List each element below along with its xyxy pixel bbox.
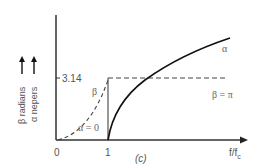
alpha-curve-label: α [222, 43, 228, 54]
up-arrow-beta-head-icon [19, 56, 25, 62]
beta-curve-label: β [92, 86, 97, 97]
beta-pi-label: β = π [212, 89, 233, 100]
up-arrow-alpha-head-icon [31, 56, 37, 62]
alpha-zero-label: α = 0 [78, 122, 99, 133]
chart-plot: 3.14 0 1 f/fc (c) α β = π β α = 0 [0, 0, 255, 166]
y-axis-label-beta: β radians [17, 87, 27, 124]
y-tick-label-314: 3.14 [62, 73, 82, 84]
y-axis-label-alpha: α nepers [29, 87, 39, 122]
x-axis-label: f/fc [229, 147, 241, 160]
x-tick-label-0: 0 [54, 147, 60, 158]
x-tick-label-1: 1 [105, 147, 111, 158]
panel-label: (c) [135, 153, 147, 164]
x-axis-arrow-icon [240, 137, 248, 144]
